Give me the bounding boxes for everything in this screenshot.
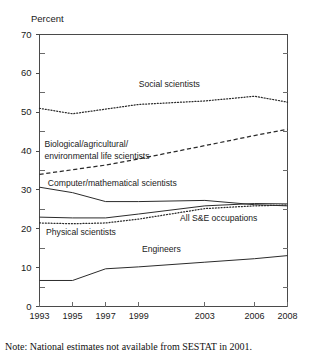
x-tick-label: 1997	[89, 311, 123, 321]
series-annotation: Computer/mathematical scientists	[48, 178, 177, 189]
y-tick-label: 30	[12, 184, 32, 195]
x-tick-label: 1995	[56, 311, 90, 321]
y-tick-label: 50	[12, 106, 32, 117]
series-annotation: All S&E occupations	[180, 213, 257, 224]
y-tick-label: 40	[12, 145, 32, 156]
series-line-0	[40, 96, 288, 113]
series-annotation: Biological/agricultural/	[44, 139, 128, 150]
chart-footnote: Note: National estimates not available f…	[5, 341, 308, 352]
x-tick-label: 2006	[237, 311, 271, 321]
y-tick-label: 0	[12, 301, 32, 312]
series-annotation: environmental life scientists	[44, 151, 149, 162]
series-line-5	[40, 256, 288, 281]
series-line-2	[40, 187, 288, 206]
x-tick-label: 1999	[122, 311, 156, 321]
x-tick-label: 2008	[271, 311, 305, 321]
y-tick-label: 10	[12, 262, 32, 273]
x-tick-label: 2003	[188, 311, 222, 321]
series-annotation: Physical scientists	[46, 227, 116, 238]
series-annotation: Social scientists	[139, 79, 200, 90]
y-tick-label: 60	[12, 67, 32, 78]
series-annotation: Engineers	[142, 244, 181, 255]
y-tick-label: 20	[12, 223, 32, 234]
y-tick-label: 70	[12, 29, 32, 40]
x-tick-label: 1993	[23, 311, 57, 321]
figure-container: Percent 010203040506070 1993199519971999…	[0, 0, 310, 362]
